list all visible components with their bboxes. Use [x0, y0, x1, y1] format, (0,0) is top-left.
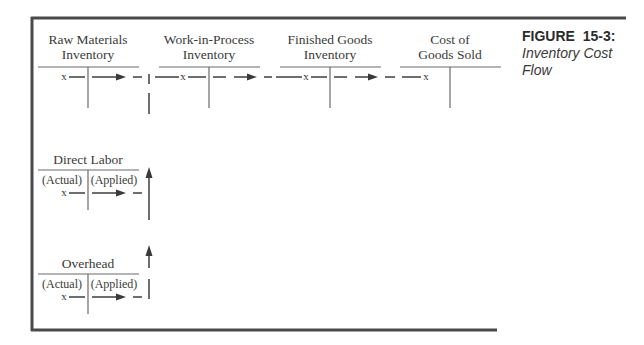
overhead-entry: x: [61, 290, 67, 302]
t-account-cost-of-goods-sold: Cost of Goods Sold x: [400, 32, 501, 108]
direct-labor-actual-label: (Actual): [42, 173, 82, 187]
t-account-direct-labor: Direct Labor (Actual) (Applied) x: [38, 152, 139, 210]
direct-labor-applied-label: (Applied): [91, 173, 138, 187]
overhead-title: Overhead: [62, 256, 115, 271]
flow-arrow-finished-goods-to-cogs: [334, 74, 395, 81]
inventory-cost-flow-diagram: FIGURE 15-3: Inventory Cost Flow Raw Mat…: [0, 0, 644, 345]
finished-goods-entry: x: [303, 70, 309, 82]
flow-arrow-overhead-to-wip: [92, 245, 153, 301]
wip-title-line1: Work-in-Process: [164, 32, 254, 47]
wip-title-line2: Inventory: [183, 47, 236, 62]
raw-materials-title-line2: Inventory: [62, 47, 115, 62]
figure-caption-line1: Inventory Cost: [522, 45, 613, 61]
direct-labor-title: Direct Labor: [53, 152, 123, 167]
finished-goods-title-line2: Inventory: [304, 47, 357, 62]
flow-arrow-raw-materials-to-wip: [92, 74, 149, 115]
overhead-actual-label: (Actual): [42, 277, 82, 291]
raw-materials-title-line1: Raw Materials: [48, 32, 127, 47]
t-account-overhead: Overhead (Actual) (Applied) x: [38, 256, 139, 314]
overhead-applied-label: (Applied): [91, 277, 138, 291]
t-account-raw-materials: Raw Materials Inventory x: [38, 32, 139, 108]
t-account-finished-goods: Finished Goods Inventory x: [276, 32, 381, 108]
raw-materials-entry: x: [61, 70, 67, 82]
cogs-title-line2: Goods Sold: [418, 47, 482, 62]
direct-labor-entry: x: [61, 186, 67, 198]
t-account-work-in-process: Work-in-Process Inventory x: [155, 32, 260, 108]
flow-arrow-wip-to-finished-goods: [213, 74, 272, 81]
figure-label: FIGURE 15-3:: [522, 28, 615, 44]
cogs-title-line1: Cost of: [430, 32, 470, 47]
figure-caption-line2: Flow: [522, 62, 552, 78]
wip-entry: x: [180, 70, 186, 82]
cogs-entry: x: [423, 70, 429, 82]
finished-goods-title-line1: Finished Goods: [287, 32, 372, 47]
